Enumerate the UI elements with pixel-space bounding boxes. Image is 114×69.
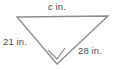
geometry-figure: c in. 21 in. 28 in.	[0, 0, 114, 69]
label-hypotenuse: c in.	[48, 1, 66, 12]
label-hypotenuse-variable: c	[48, 1, 53, 12]
label-leg-left-unit: in.	[17, 36, 27, 47]
triangle-outline	[17, 16, 108, 64]
label-leg-right: 28 in.	[78, 45, 102, 56]
label-leg-right-unit: in.	[92, 45, 102, 56]
label-leg-right-value: 28	[78, 45, 89, 56]
label-leg-left: 21 in.	[3, 36, 27, 47]
label-leg-left-value: 21	[3, 36, 14, 47]
label-hypotenuse-unit: in.	[56, 1, 66, 12]
